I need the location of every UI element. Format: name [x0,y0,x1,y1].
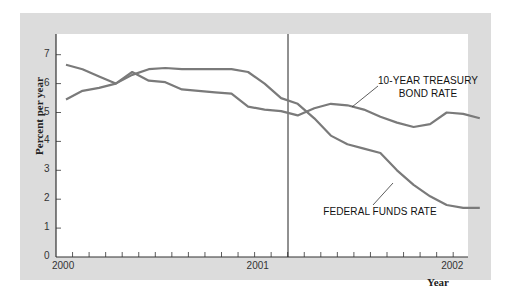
fed-funds-annotation: FEDERAL FUNDS RATE [315,205,445,218]
line-chart [0,0,512,302]
x-axis-label: Year [427,276,449,288]
treasury-label-line2: BOND RATE [368,87,488,100]
y-tick-label: 6 [44,77,50,88]
y-tick-label: 3 [44,163,50,174]
axes [56,34,468,257]
x-tick-label: 2002 [441,260,463,271]
y-tick-label: 2 [44,192,50,203]
x-tick-label: 2000 [52,260,74,271]
y-tick-label: 5 [44,106,50,117]
treasury-label-line1: 10-YEAR TREASURY [368,74,488,87]
y-tick-label: 1 [44,221,50,232]
fed-funds-label: FEDERAL FUNDS RATE [315,205,445,218]
y-tick-label: 4 [44,134,50,145]
y-tick-label: 7 [44,48,50,59]
y-tick-label: 0 [44,250,50,261]
x-tick-label: 2001 [247,260,269,271]
treasury-annotation: 10-YEAR TREASURY BOND RATE [368,74,488,100]
